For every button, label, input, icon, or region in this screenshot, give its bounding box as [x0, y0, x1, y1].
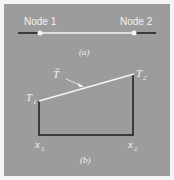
- diagram: Node 1 Node 2 (a) T̃ T 1 T 2 x 1 x 2 (b): [0, 0, 174, 180]
- x2-sub: 2: [134, 145, 138, 153]
- element-b: T̃ T 1 T 2 x 1 x 2 (b): [26, 67, 147, 165]
- arrowhead-icon: [78, 83, 84, 87]
- caption-a: (a): [79, 47, 90, 57]
- t1-label: T: [26, 91, 33, 103]
- box-outline: [39, 75, 133, 135]
- t2-sub: 2: [143, 74, 147, 82]
- node-1-dot: [38, 31, 43, 36]
- node-1-label: Node 1: [24, 16, 57, 27]
- x1-label: x: [34, 138, 40, 150]
- node-2-dot: [132, 31, 137, 36]
- t-tilde-label: T̃: [53, 68, 60, 80]
- caption-b: (b): [80, 155, 91, 165]
- element-a: Node 1 Node 2 (a): [18, 16, 156, 57]
- node-2-label: Node 2: [120, 16, 153, 27]
- x1-sub: 1: [41, 145, 45, 153]
- t1-sub: 1: [33, 98, 37, 106]
- t2-label: T: [136, 67, 143, 79]
- x2-label: x: [127, 138, 133, 150]
